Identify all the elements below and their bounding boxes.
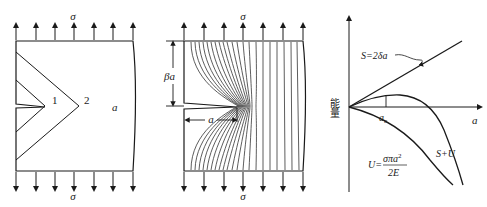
leader-arrow xyxy=(395,55,422,65)
svg-text:U=: U= xyxy=(368,159,382,170)
crack-length-label: a xyxy=(112,101,118,113)
relief-zone-2 xyxy=(16,52,79,160)
formula-denominator: 2E xyxy=(388,167,399,178)
crack-length-label-b: a xyxy=(208,113,214,125)
stress-bottom-label: σ xyxy=(70,190,76,202)
strain-energy-curve xyxy=(349,107,453,185)
plate-outline xyxy=(16,41,136,171)
sum-label: S+U xyxy=(436,148,456,159)
tension-arrows-top xyxy=(16,25,133,40)
stress-top-label-b: σ xyxy=(240,10,246,22)
crack-label-1: 1 xyxy=(52,94,58,106)
panel-a-cracked-plate: σ 1 2 a σ xyxy=(16,10,136,202)
total-energy-curve xyxy=(349,95,463,185)
critical-length-label: ac xyxy=(379,112,387,125)
crack-label-2: 2 xyxy=(84,94,90,106)
beta-a-label: βa xyxy=(163,70,175,82)
formula-numerator: σπa2 xyxy=(383,152,402,164)
y-axis-label: 能量 xyxy=(329,97,340,118)
tension-arrows-top-b xyxy=(184,25,303,40)
stress-top-label: σ xyxy=(70,10,76,22)
panel-c-energy-plot: 能量 a ac S=2δa S+U U= σπa2 2E xyxy=(329,18,481,192)
strain-energy-formula: U= σπa2 2E xyxy=(368,152,407,178)
stress-flow-lines xyxy=(191,42,299,170)
stress-bottom-label-b: σ xyxy=(240,190,246,202)
fracture-energy-figure: σ 1 2 a σ σ xyxy=(0,0,487,207)
panel-b-stress-lines: σ xyxy=(163,10,306,202)
surface-energy-label: S=2δa xyxy=(361,50,387,61)
tension-arrows-bottom-b xyxy=(184,172,303,189)
x-axis-label: a xyxy=(472,114,478,126)
tension-arrows-bottom xyxy=(16,172,133,189)
